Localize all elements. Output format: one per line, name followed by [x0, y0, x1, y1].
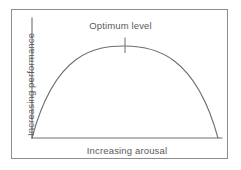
- x-axis-label: Increasing arousal: [32, 146, 222, 156]
- axes-group: [32, 18, 222, 138]
- curve-group: [32, 46, 218, 138]
- y-axis-label: Increasing performance: [26, 16, 36, 136]
- optimum-level-annotation: Optimum level: [0, 21, 241, 31]
- performance-curve: [32, 46, 218, 138]
- figure-root: Optimum level Increasing arousal Increas…: [0, 0, 241, 170]
